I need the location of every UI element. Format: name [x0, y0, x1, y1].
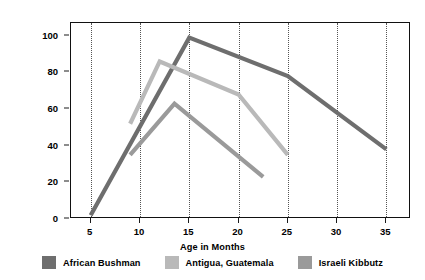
y-tick-mark-80: [64, 71, 69, 72]
y-tick-label-100: 100: [32, 29, 58, 40]
x-tick-mark-30: [336, 218, 337, 223]
chart-legend: African BushmanAntigua, GuatemalaIsraeli…: [0, 256, 425, 269]
x-tick-label-35: 35: [380, 226, 391, 237]
y-tick-mark-60: [64, 108, 69, 109]
legend-swatch-icon: [298, 256, 312, 269]
y-tick-mark-20: [64, 181, 69, 182]
y-tick-mark-40: [64, 144, 69, 145]
x-tick-label-15: 15: [183, 226, 194, 237]
legend-item-israeli-kibbutz[interactable]: Israeli Kibbutz: [298, 256, 383, 269]
x-tick-mark-35: [385, 218, 386, 223]
y-tick-label-40: 40: [32, 139, 58, 150]
legend-item-african-bushman[interactable]: African Bushman: [42, 256, 141, 269]
plot-area: [70, 22, 410, 218]
x-tick-label-10: 10: [134, 226, 145, 237]
y-tick-label-0: 0: [32, 213, 58, 224]
x-tick-mark-15: [188, 218, 189, 223]
y-tick-mark-0: [64, 218, 69, 219]
legend-label: Antigua, Guatemala: [186, 258, 274, 268]
legend-swatch-icon: [42, 256, 56, 269]
legend-label: African Bushman: [63, 258, 141, 268]
y-tick-label-60: 60: [32, 103, 58, 114]
x-tick-label-30: 30: [331, 226, 342, 237]
chart-root: Percentage of Children Who Cried Followi…: [0, 0, 425, 280]
x-tick-mark-5: [90, 218, 91, 223]
x-tick-label-5: 5: [87, 226, 92, 237]
y-tick-label-20: 20: [32, 176, 58, 187]
data-lines: [71, 23, 411, 219]
x-tick-label-25: 25: [282, 226, 293, 237]
x-tick-label-20: 20: [232, 226, 243, 237]
x-tick-mark-25: [287, 218, 288, 223]
x-axis-title: Age in Months: [0, 242, 425, 252]
legend-swatch-icon: [165, 256, 179, 269]
x-tick-mark-20: [238, 218, 239, 223]
legend-label: Israeli Kibbutz: [319, 258, 383, 268]
series-line-antigua-guatemala: [130, 61, 288, 154]
y-tick-label-80: 80: [32, 66, 58, 77]
legend-item-antigua-guatemala[interactable]: Antigua, Guatemala: [165, 256, 274, 269]
series-line-african-bushman: [91, 38, 387, 216]
y-tick-mark-100: [64, 34, 69, 35]
x-tick-mark-10: [139, 218, 140, 223]
series-line-israeli-kibbutz: [130, 104, 263, 177]
